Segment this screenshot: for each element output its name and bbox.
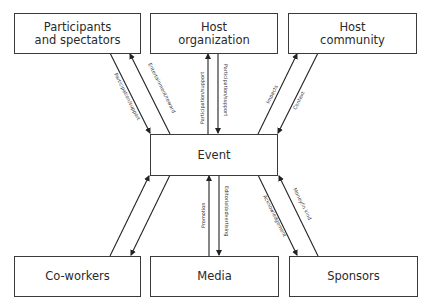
node-label: Event bbox=[198, 149, 231, 162]
node-participants-and-spectators: Participants and spectators bbox=[14, 13, 141, 54]
node-media: Media bbox=[150, 256, 279, 297]
edge-label-event-to-host-org: Participation/support bbox=[199, 72, 206, 124]
arrow-coworkers-to-event bbox=[110, 176, 149, 256]
node-sponsors: Sponsors bbox=[289, 256, 418, 297]
edge-label-promotion: Promotion bbox=[200, 203, 206, 228]
edge-label-event-to-participants: Entertainment/reward bbox=[147, 62, 177, 114]
edge-label-editorial-advertising: Editorial/advertising bbox=[223, 186, 230, 236]
node-label-line2: organization bbox=[178, 34, 250, 47]
node-label-line1: Participants bbox=[35, 21, 121, 34]
node-co-workers: Co-workers bbox=[14, 256, 141, 297]
arrow-event-to-host-community bbox=[258, 54, 297, 134]
edge-label-context: Context bbox=[292, 90, 306, 110]
node-event: Event bbox=[150, 134, 278, 176]
arrow-event-to-coworkers bbox=[131, 175, 170, 255]
node-host-organization: Host organization bbox=[150, 13, 278, 54]
node-label-line2: and spectators bbox=[35, 34, 121, 47]
edge-label-money-in-kind: Money/in kind bbox=[291, 187, 313, 221]
node-label-line2: community bbox=[320, 34, 385, 47]
edge-label-participants-to-event: Participation/support bbox=[112, 72, 142, 122]
node-label: Co-workers bbox=[45, 270, 110, 283]
node-label: Sponsors bbox=[327, 270, 380, 283]
node-host-community: Host community bbox=[288, 13, 417, 54]
node-label: Media bbox=[197, 270, 232, 283]
node-label-line1: Host bbox=[178, 21, 250, 34]
edge-label-acknowledgement: Acknowledgement bbox=[261, 194, 288, 239]
edge-label-host-org-to-event: Participation/support bbox=[222, 64, 229, 116]
node-label-line1: Host bbox=[320, 21, 385, 34]
